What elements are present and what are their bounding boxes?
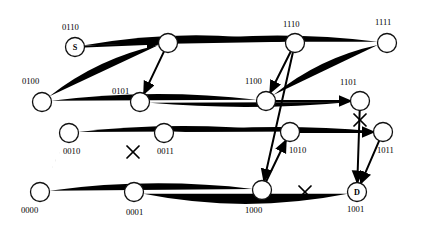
edge-0100-0000 <box>40 111 42 182</box>
edge-0000-1000 <box>49 183 252 190</box>
node-marker-0110: S <box>73 43 78 52</box>
edge-0000-0010 <box>44 142 65 184</box>
edge-0001-1001 <box>143 194 347 204</box>
node-label-0110: 0110 <box>62 22 79 32</box>
node-circle-0111[interactable] <box>159 34 178 53</box>
edge-1111-1011 <box>383 52 386 122</box>
node-0110[interactable]: S0110 <box>62 22 85 57</box>
node-0010[interactable]: 0010 <box>60 124 81 157</box>
node-label-1111: 1111 <box>375 17 391 27</box>
node-0001[interactable]: 0001 <box>125 183 144 218</box>
node-1011[interactable]: 1011 <box>374 123 394 156</box>
node-label-1011: 1011 <box>377 145 394 155</box>
node-circle-1011[interactable] <box>374 123 393 142</box>
edge-0110-0010 <box>70 56 75 123</box>
node-label-0011: 0011 <box>157 146 174 156</box>
node-0011[interactable]: 0011 <box>155 124 174 157</box>
node-circle-0000[interactable] <box>31 183 50 202</box>
node-label-1101: 1101 <box>340 77 357 87</box>
edge-1000-1001 <box>271 190 347 192</box>
node-0000[interactable]: 0000 <box>21 183 50 216</box>
edge-1110-1000 <box>264 52 293 180</box>
node-label-1010: 1010 <box>289 145 306 155</box>
node-label-0111: 0111 <box>182 34 199 44</box>
edge-1111-1101 <box>364 52 383 93</box>
node-label-0000: 0000 <box>21 205 38 215</box>
edge-0101-1101 <box>149 102 350 107</box>
node-circle-0100[interactable] <box>33 93 52 112</box>
node-circle-1101[interactable] <box>351 92 370 111</box>
edge-0111-0101 <box>144 52 164 94</box>
node-label-0100: 0100 <box>22 76 39 86</box>
hypercube-svg: S011001111110111101000101110011010010001… <box>0 0 422 237</box>
node-circle-1000[interactable] <box>253 181 272 200</box>
node-1101[interactable]: 1101 <box>340 77 370 111</box>
node-circle-0101[interactable] <box>131 93 150 112</box>
node-circle-0011[interactable] <box>155 124 174 143</box>
graph-edges <box>40 35 386 204</box>
node-1111[interactable]: 1111 <box>375 17 397 53</box>
node-circle-1111[interactable] <box>378 34 397 53</box>
edge-0111-0011 <box>164 52 167 123</box>
node-circle-1010[interactable] <box>281 123 300 142</box>
hypercube-routing-figure: S011001111110111101000101110011010010001… <box>0 0 422 237</box>
node-label-1100: 1100 <box>245 76 262 86</box>
node-label-1000: 1000 <box>245 205 262 215</box>
node-marker-1001: D <box>354 188 360 197</box>
node-circle-1100[interactable] <box>257 92 276 111</box>
edge-0100-1100 <box>51 94 256 101</box>
edge-1100-1000 <box>262 110 265 180</box>
fault-0001-0011 <box>127 146 139 158</box>
edge-0100-0111 <box>49 45 158 96</box>
node-circle-1110[interactable] <box>286 34 305 53</box>
node-label-0101: 0101 <box>112 86 129 96</box>
node-0100[interactable]: 0100 <box>22 76 52 112</box>
node-label-1001: 1001 <box>347 204 364 214</box>
node-label-0001: 0001 <box>126 207 143 217</box>
node-circle-0001[interactable] <box>125 183 144 202</box>
node-circle-0010[interactable] <box>60 124 79 143</box>
node-label-0010: 0010 <box>63 146 80 156</box>
node-1001[interactable]: D1001 <box>347 183 367 215</box>
node-label-1110: 1110 <box>283 19 300 29</box>
